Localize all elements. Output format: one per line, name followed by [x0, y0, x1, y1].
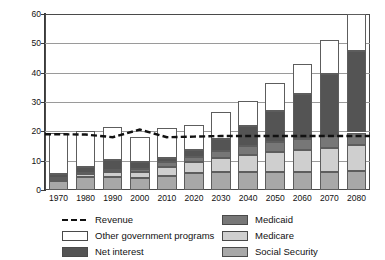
y-axis-tick-label: 30: [1, 98, 41, 106]
revenue-line: [45, 14, 370, 190]
legend-item-social-security: Social Security: [222, 244, 318, 259]
y-axis-tick-label: 20: [1, 127, 41, 135]
plot-area: [45, 14, 370, 190]
net-interest-swatch-icon: [62, 247, 88, 257]
legend-label: Net interest: [95, 247, 144, 257]
x-axis-tick-label: 2020: [180, 193, 207, 203]
legend-column-left: Revenue Other government programs Net in…: [62, 212, 214, 260]
chart-container: 0102030405060 19701980199020002010202020…: [0, 0, 385, 260]
legend-item-net-interest: Net interest: [62, 244, 214, 259]
revenue-dashed-swatch-icon: [62, 215, 88, 225]
chart-legend: Revenue Other government programs Net in…: [0, 212, 385, 260]
x-axis-tick-label: 2000: [126, 193, 153, 203]
x-axis-labels: 1970198019902000201020202030204020502060…: [45, 193, 370, 207]
medicare-swatch-icon: [222, 231, 248, 241]
legend-label: Revenue: [95, 215, 133, 225]
legend-item-other-government-programs: Other government programs: [62, 228, 214, 243]
legend-label: Medicaid: [255, 215, 293, 225]
y-axis-tick-label: 60: [1, 10, 41, 18]
x-axis-tick-label: 1970: [45, 193, 72, 203]
x-axis-tick-label: 1980: [72, 193, 99, 203]
x-axis-tick-label: 2040: [235, 193, 262, 203]
legend-label: Other government programs: [95, 231, 214, 241]
legend-column-right: Medicaid Medicare Social Security: [222, 212, 318, 260]
x-axis-tick-label: 2010: [153, 193, 180, 203]
y-axis-tick-label: 50: [1, 39, 41, 47]
legend-label: Medicare: [255, 231, 294, 241]
y-axis-tick-label: 10: [1, 157, 41, 165]
legend-label: Social Security: [255, 247, 318, 257]
y-axis-ticks: 0102030405060: [0, 14, 41, 190]
x-axis-tick-label: 2060: [289, 193, 316, 203]
x-axis-tick-label: 2030: [208, 193, 235, 203]
legend-item-medicare: Medicare: [222, 228, 318, 243]
other-government-programs-swatch-icon: [62, 231, 88, 241]
legend-item-medicaid: Medicaid: [222, 212, 318, 227]
social-security-swatch-icon: [222, 247, 248, 257]
top-note: [0, 0, 385, 9]
legend-item-revenue: Revenue: [62, 212, 214, 227]
medicaid-swatch-icon: [222, 215, 248, 225]
x-axis-tick-label: 2080: [343, 193, 370, 203]
x-axis-tick-label: 2050: [262, 193, 289, 203]
y-axis-tick-label: 40: [1, 69, 41, 77]
x-axis-tick-label: 2070: [316, 193, 343, 203]
y-axis-tick-label: 0: [1, 186, 41, 194]
x-axis-tick-label: 1990: [99, 193, 126, 203]
